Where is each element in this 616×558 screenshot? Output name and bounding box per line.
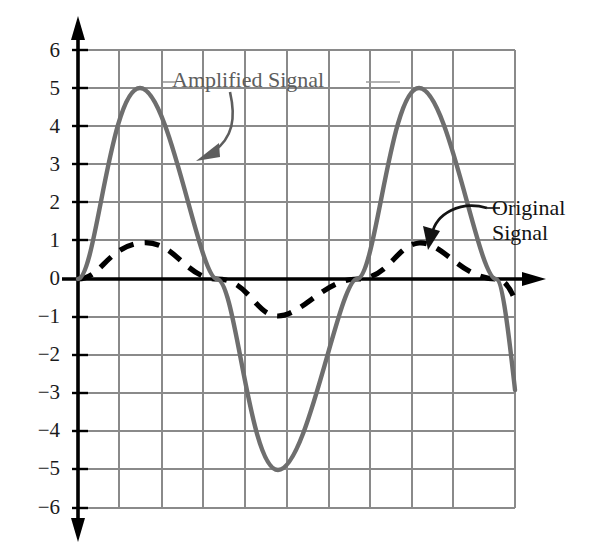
y-axis-arrowhead-down	[71, 518, 85, 542]
y-tick-label-neg5: −5	[16, 458, 60, 479]
x-axis-arrowhead	[522, 272, 546, 286]
y-tick-label-neg4: −4	[16, 420, 60, 441]
original-signal-label: Original Signal	[492, 196, 565, 245]
amplified-signal-arrow	[163, 82, 400, 161]
y-tick-label-3: 3	[24, 154, 60, 175]
original-signal-label-line2: Signal	[492, 221, 565, 246]
y-tick-label-6: 6	[24, 40, 60, 61]
y-tick-label-neg6: −6	[16, 497, 60, 518]
y-tick-label-0: 0	[24, 268, 60, 289]
y-tick-label-5: 5	[24, 78, 60, 99]
signal-amplification-graph: 6 5 4 3 2 1 0 −1 −2 −3 −4 −5 −6 Amplifie…	[0, 0, 616, 558]
y-tick-label-2: 2	[24, 192, 60, 213]
y-tick-label-4: 4	[24, 116, 60, 137]
y-axis-arrowhead	[71, 16, 85, 40]
y-tick-label-neg1: −1	[16, 306, 60, 327]
amplified-signal-label: Amplified Signal	[172, 68, 324, 93]
y-tick-label-1: 1	[24, 230, 60, 251]
x-axis	[62, 272, 546, 286]
original-signal-label-line1: Original	[492, 196, 565, 221]
original-signal-arrow	[423, 206, 500, 250]
y-tick-label-neg3: −3	[16, 382, 60, 403]
y-tick-label-neg2: −2	[16, 344, 60, 365]
